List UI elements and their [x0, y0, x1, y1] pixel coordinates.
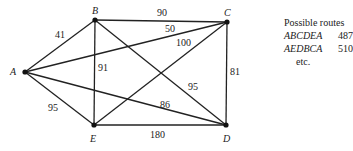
legend-route-row: ABCDEA 487 [284, 29, 353, 42]
route-length: 487 [338, 29, 353, 42]
weight-a-e: 95 [48, 103, 58, 113]
node-b-dot [92, 17, 97, 22]
weight-d-e: 180 [150, 130, 165, 140]
node-d-dot [223, 122, 228, 127]
edge-b-c [95, 20, 227, 22]
weight-b-c: 90 [157, 8, 167, 18]
weight-b-d: 95 [188, 82, 198, 92]
edge-a-d [25, 72, 226, 125]
node-label-c: C [224, 8, 231, 18]
routes-legend: Possible routes ABCDEA 487 AEDBCA 510 et… [284, 16, 353, 68]
node-label-d: D [223, 134, 230, 144]
weight-a-b: 41 [55, 30, 65, 40]
legend-route-row: AEDBCA 510 [284, 42, 353, 55]
legend-title: Possible routes [284, 16, 353, 29]
node-label-e: E [90, 134, 96, 144]
weight-a-c: 50 [165, 24, 175, 34]
route-length: 510 [338, 42, 353, 55]
edge-b-e [94, 20, 95, 125]
route-name: AEDBCA [284, 42, 338, 55]
weight-c-d: 81 [230, 67, 240, 77]
node-c-dot [224, 19, 229, 24]
weight-a-d: 86 [160, 100, 170, 110]
edge-a-b [25, 20, 95, 72]
node-e-dot [91, 122, 96, 127]
node-a-dot [22, 69, 27, 74]
node-label-b: B [92, 6, 98, 16]
edge-c-d [226, 22, 227, 125]
route-name: ABCDEA [284, 29, 338, 42]
weight-c-e: 100 [176, 38, 191, 48]
node-label-a: A [10, 67, 16, 77]
edge-a-e [25, 72, 94, 125]
weight-b-e: 91 [98, 63, 108, 73]
legend-etc: etc. [284, 55, 353, 68]
